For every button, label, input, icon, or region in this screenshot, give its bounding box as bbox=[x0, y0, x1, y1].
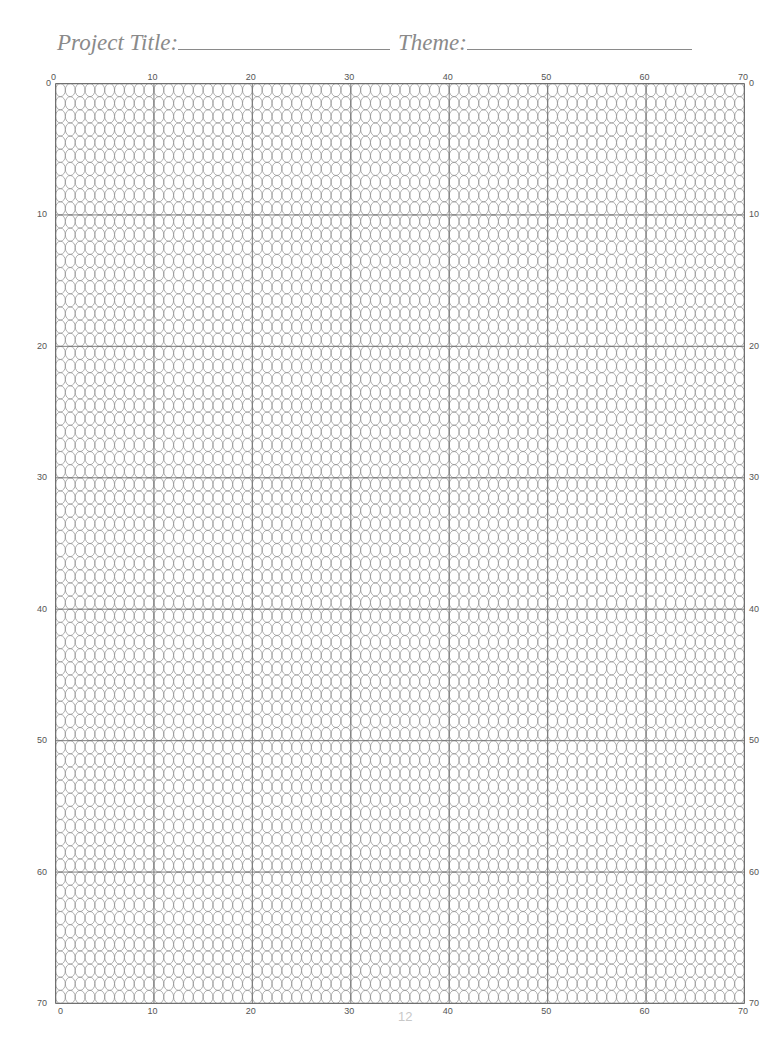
top-tick-label: 50 bbox=[541, 73, 551, 82]
theme-label: Theme: bbox=[398, 30, 467, 55]
right-tick-label: 50 bbox=[749, 736, 759, 745]
left-tick-label: 40 bbox=[37, 605, 47, 614]
top-tick-label: 70 bbox=[738, 73, 748, 82]
top-tick-label: 20 bbox=[246, 73, 256, 82]
bottom-tick-label: 10 bbox=[147, 1007, 157, 1016]
theme-blank-line[interactable] bbox=[467, 31, 692, 50]
left-tick-label: 30 bbox=[37, 473, 47, 482]
right-tick-label: 40 bbox=[749, 605, 759, 614]
bottom-tick-label: 20 bbox=[246, 1007, 256, 1016]
top-tick-label: 0 bbox=[51, 73, 56, 82]
left-tick-label: 0 bbox=[46, 79, 51, 88]
right-tick-label: 60 bbox=[749, 868, 759, 877]
right-tick-label: 30 bbox=[749, 473, 759, 482]
top-tick-label: 10 bbox=[147, 73, 157, 82]
theme-field: Theme: bbox=[398, 30, 692, 56]
bottom-tick-label: 40 bbox=[443, 1007, 453, 1016]
right-tick-label: 20 bbox=[749, 342, 759, 351]
project-title-label: Project Title: bbox=[57, 30, 178, 55]
top-tick-label: 60 bbox=[640, 73, 650, 82]
top-tick-label: 30 bbox=[344, 73, 354, 82]
page-number: 12 bbox=[398, 1009, 412, 1024]
left-tick-label: 20 bbox=[37, 342, 47, 351]
left-tick-label: 10 bbox=[37, 210, 47, 219]
bottom-tick-label: 0 bbox=[58, 1007, 63, 1016]
right-tick-label: 70 bbox=[749, 999, 759, 1008]
bead-oval-grid bbox=[55, 83, 745, 1004]
top-tick-label: 40 bbox=[443, 73, 453, 82]
left-tick-label: 50 bbox=[37, 736, 47, 745]
bottom-tick-label: 30 bbox=[344, 1007, 354, 1016]
project-title-blank-line[interactable] bbox=[178, 31, 390, 50]
left-tick-label: 60 bbox=[37, 868, 47, 877]
bottom-tick-label: 70 bbox=[738, 1007, 748, 1016]
left-tick-label: 70 bbox=[37, 999, 47, 1008]
bottom-tick-label: 60 bbox=[640, 1007, 650, 1016]
right-tick-label: 10 bbox=[749, 210, 759, 219]
right-tick-label: 0 bbox=[749, 79, 754, 88]
project-title-field: Project Title: bbox=[57, 30, 390, 56]
bottom-tick-label: 50 bbox=[541, 1007, 551, 1016]
